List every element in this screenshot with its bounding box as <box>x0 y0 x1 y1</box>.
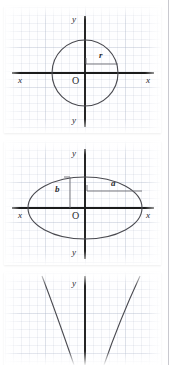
x-axis-label-left: x <box>18 211 22 220</box>
y-axis-label-top: y <box>72 279 76 288</box>
hyperbola-figure-panel: y <box>4 272 161 365</box>
y-axis-label-top: y <box>72 149 76 158</box>
circle-plot <box>4 6 161 133</box>
ellipse-plot <box>4 141 161 265</box>
hyperbola-right-branch <box>104 276 140 365</box>
hyperbola-left-branch <box>42 276 74 365</box>
radius-label: r <box>99 51 103 60</box>
semi-minor-measure-line <box>64 177 70 208</box>
origin-label: O <box>72 211 79 221</box>
y-axis-label-bottom: y <box>72 116 76 125</box>
semi-major-axis-label: a <box>111 179 116 188</box>
x-axis-label-right: x <box>146 211 150 220</box>
y-axis-label-bottom: y <box>72 248 76 257</box>
hyperbola-plot <box>4 272 161 365</box>
origin-label: O <box>72 76 79 86</box>
circle-figure-panel: y y x x O r <box>4 6 161 133</box>
x-axis-label-right: x <box>146 76 150 85</box>
page-edge-rule <box>168 0 169 365</box>
x-axis-label-left: x <box>18 76 22 85</box>
semi-minor-axis-label: b <box>55 185 60 194</box>
ellipse-figure-panel: y y x x O b a <box>4 141 161 265</box>
y-axis-label-top: y <box>72 15 76 24</box>
